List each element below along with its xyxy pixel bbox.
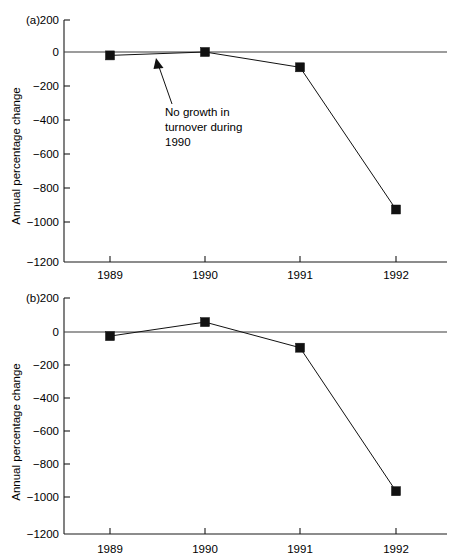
panel-b-data-line [110, 322, 396, 491]
panel-b-xtick-1992: 1992 [383, 543, 409, 555]
panel-a-ylabel-group: Annual percentage change [10, 87, 22, 224]
panel-b-ylabel-group: Annual percentage change [10, 363, 22, 500]
panel-a-annotation-line-3: 1990 [165, 136, 191, 148]
panel-b-tag: (b) [26, 292, 40, 304]
panel-a-xtick-1989: 1989 [97, 269, 123, 280]
panel-a-svg: (a) Annual percentage change 200 0 −200 … [0, 0, 459, 280]
panel-a-ytick-0: 0 [53, 46, 59, 58]
panel-a-ytick-m600: −600 [33, 148, 59, 160]
panel-b-y-axis-title: Annual percentage change [10, 363, 22, 500]
panel-b-ytick-200: 200 [40, 292, 59, 304]
panel-b-ytick-m200: −200 [33, 359, 59, 371]
panel-b-xtick-1991: 1991 [287, 543, 313, 555]
figure-container: (a) Annual percentage change 200 0 −200 … [0, 0, 459, 560]
panel-b-ytick-m1000: −1000 [27, 491, 59, 503]
panel-a-xtick-1991: 1991 [287, 269, 313, 280]
panel-a-tag: (a) [26, 14, 40, 26]
panel-b-tag-group: (b) [26, 292, 40, 304]
panel-b-marker-1990 [201, 318, 210, 327]
panel-a-annotation-leader [158, 64, 172, 104]
panel-b-series [106, 318, 401, 496]
chart-panel-b: (b) Annual percentage change 200 0 −200 … [0, 280, 459, 560]
panel-a-ytick-m200: −200 [33, 80, 59, 92]
panel-b-xtick-1989: 1989 [97, 543, 123, 555]
panel-a-ytick-200: 200 [40, 14, 59, 26]
chart-panel-a: (a) Annual percentage change 200 0 −200 … [0, 0, 459, 280]
panel-a-marker-1989 [106, 51, 115, 60]
panel-b-ytick-m400: −400 [33, 392, 59, 404]
panel-a-x-tick-labels: 1989 1990 1991 1992 [97, 269, 409, 280]
panel-a-marker-1991 [296, 63, 305, 72]
panel-b-ytick-m600: −600 [33, 425, 59, 437]
panel-a-marker-1992 [392, 205, 401, 214]
panel-a-ytick-m1000: −1000 [27, 216, 59, 228]
panel-b-ytick-0: 0 [53, 326, 59, 338]
panel-a-annotation-line-2: turnover during [165, 121, 242, 133]
panel-a-series [106, 48, 401, 215]
panel-a-ytick-m1200: −1200 [27, 256, 59, 268]
panel-a-tag-group: (a) [26, 14, 40, 26]
panel-b-svg: (b) Annual percentage change 200 0 −200 … [0, 280, 459, 560]
panel-b-marker-1992 [392, 487, 401, 496]
panel-a-marker-1990 [201, 48, 210, 57]
panel-a-ytick-m400: −400 [33, 114, 59, 126]
panel-b-y-tick-labels: 200 0 −200 −400 −600 −800 −1000 −1200 [27, 292, 59, 540]
panel-a-xtick-1990: 1990 [192, 269, 218, 280]
panel-b-xtick-1990: 1990 [192, 543, 218, 555]
panel-a-axes [64, 20, 447, 262]
panel-b-ytick-m1200: −1200 [27, 528, 59, 540]
panel-b-marker-1991 [296, 343, 305, 352]
panel-b-ytick-m800: −800 [33, 458, 59, 470]
panel-b-axes [64, 298, 447, 534]
arrow-up-icon [154, 58, 164, 69]
panel-a-annotation-line-1: No growth in [165, 106, 230, 118]
panel-b-x-tick-labels: 1989 1990 1991 1992 [97, 543, 409, 555]
panel-a-data-line [110, 52, 396, 210]
panel-a-ytick-m800: −800 [33, 182, 59, 194]
panel-a-xtick-1992: 1992 [383, 269, 409, 280]
panel-a-y-axis-title: Annual percentage change [10, 87, 22, 224]
panel-a-annotation: No growth in turnover during 1990 [154, 58, 243, 148]
panel-a-y-tick-labels: 200 0 −200 −400 −600 −800 −1000 −1200 [27, 14, 59, 268]
panel-b-marker-1989 [106, 332, 115, 341]
